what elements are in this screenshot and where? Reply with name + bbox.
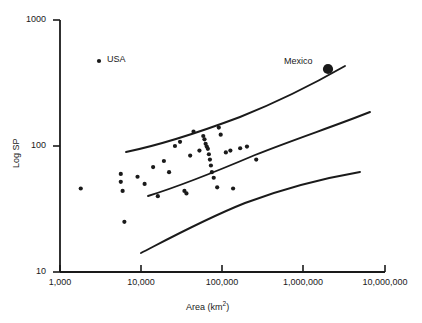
fitted-regression-line-curve (148, 112, 370, 196)
data-point (219, 133, 223, 137)
data-point (212, 176, 216, 180)
x-axis-title-base: Area (km (186, 302, 223, 312)
data-point (215, 185, 219, 189)
data-point (228, 148, 232, 152)
lower-confidence-band-curve (141, 172, 360, 253)
data-point (191, 130, 195, 134)
x-axis-title: Area (km2) (186, 300, 229, 312)
data-point (224, 150, 228, 154)
usa-legend-label: USA (107, 54, 126, 64)
data-point (210, 170, 214, 174)
data-point (135, 175, 139, 179)
x-tick-label-100000: 100,000 (197, 277, 247, 287)
data-point (209, 163, 213, 167)
data-point (143, 182, 147, 186)
x-tick-label-1000000: 1,000,000 (274, 277, 332, 287)
y-tick-marks (53, 20, 60, 272)
x-axis-title-close: ) (226, 302, 229, 312)
data-point (121, 189, 125, 193)
data-point (188, 153, 192, 157)
data-point (167, 170, 171, 174)
data-point (178, 140, 182, 144)
y-tick-label-10: 10 (14, 266, 46, 276)
x-tick-marks (60, 265, 385, 272)
data-point (207, 152, 211, 156)
data-point (231, 186, 235, 190)
plot-canvas (0, 0, 422, 323)
data-point (162, 159, 166, 163)
y-axis-title: Log SP (11, 138, 21, 168)
data-point (184, 191, 188, 195)
mexico-data-point (323, 64, 333, 74)
data-point (79, 186, 83, 190)
scatter-plot-figure: 1000 100 10 1,000 10,000 100,000 1,000,0… (0, 0, 422, 323)
x-tick-label-10000: 10,000 (119, 277, 163, 287)
data-point (202, 137, 206, 141)
upper-confidence-band-curve (126, 66, 345, 152)
data-point (119, 172, 123, 176)
data-point (173, 144, 177, 148)
data-point (119, 180, 123, 184)
data-point (206, 147, 210, 151)
data-point (245, 144, 249, 148)
mexico-point-label: Mexico (284, 56, 313, 66)
data-point (254, 158, 258, 162)
data-point (151, 165, 155, 169)
data-point (238, 146, 242, 150)
x-tick-label-10000000: 10,000,000 (352, 277, 418, 287)
x-tick-label-1000: 1,000 (42, 277, 78, 287)
data-point (156, 194, 160, 198)
usa-legend-marker (97, 59, 101, 63)
data-point (122, 220, 126, 224)
y-tick-label-1000: 1000 (14, 14, 46, 24)
data-point (217, 125, 221, 129)
data-point (208, 158, 212, 162)
data-point (197, 148, 201, 152)
